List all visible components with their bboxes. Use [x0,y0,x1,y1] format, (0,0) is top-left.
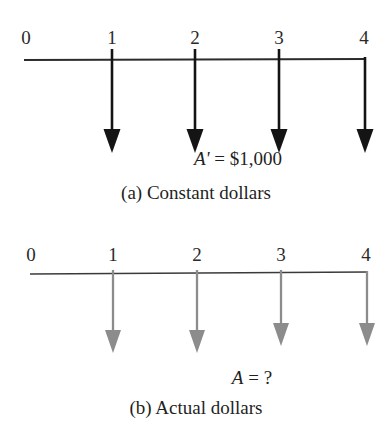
caption-b: (b) Actual dollars [0,397,392,419]
cash-flow-arrow-b-1 [105,270,121,353]
tick-label-a-2: 2 [190,28,200,47]
tick-label-a-1: 1 [107,28,117,47]
tick-label-b-1: 1 [108,245,118,264]
tick-label-b-4: 4 [361,245,371,264]
amount-equals-a: = [214,148,225,169]
amount-value-b: ? [264,367,272,388]
tick-label-a-3: 3 [274,28,284,47]
tick-label-b-0: 0 [26,245,36,264]
time-axis-line-b [30,272,368,274]
cash-flow-arrow-a-4 [357,57,374,153]
cash-flow-arrow-b-2 [189,270,205,353]
amount-annotation-a: A' = $1,000 [0,148,392,170]
cash-flow-diagram-constant-dollars: 0 1 2 3 4 A' = $1,000 (a) Constant dolla… [0,0,392,220]
cash-flow-arrow-a-3 [271,49,288,153]
amount-equals-b: = [248,367,259,388]
tick-label-b-2: 2 [192,245,202,264]
amount-annotation-b: A = ? [0,367,392,389]
cash-flow-arrow-b-4 [359,271,375,346]
cash-flow-arrow-b-3 [273,270,289,346]
cash-flow-arrow-a-1 [104,49,121,153]
cash-flow-diagram-actual-dollars: 0 1 2 3 4 A = ? (b) Actual dollars [0,220,392,440]
cash-flow-arrow-a-2 [187,49,204,153]
caption-a: (a) Constant dollars [0,182,392,204]
tick-label-b-3: 3 [276,245,286,264]
tick-label-a-4: 4 [359,28,369,47]
amount-symbol-a: A' [194,148,210,169]
amount-symbol-b: A [232,367,244,388]
tick-label-a-0: 0 [21,28,31,47]
amount-value-a: $1,000 [230,148,282,169]
